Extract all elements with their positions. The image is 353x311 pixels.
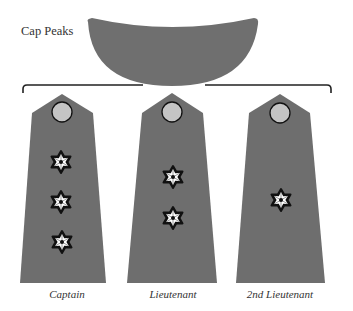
- rank-label-2nd-lieutenant: 2nd Lieutenant: [220, 288, 340, 300]
- shoulder-board-2nd-lieutenant: [236, 94, 325, 283]
- insignia-diagram: Cap Peaks Captain Lieutenant 2nd Lieuten…: [0, 0, 353, 311]
- rank-label-lieutenant: Lieutenant: [113, 288, 233, 300]
- button-icon: [270, 103, 290, 123]
- shoulder-board-lieutenant: [127, 93, 217, 283]
- button-icon: [52, 102, 72, 122]
- shoulder-board-captain: [20, 94, 106, 283]
- grouping-bracket: [23, 85, 331, 93]
- button-icon: [162, 102, 182, 122]
- insignia-graphic: [0, 0, 353, 311]
- cap-peaks-label: Cap Peaks: [21, 24, 73, 39]
- rank-label-captain: Captain: [7, 288, 127, 300]
- cap-peak-shape: [88, 18, 259, 86]
